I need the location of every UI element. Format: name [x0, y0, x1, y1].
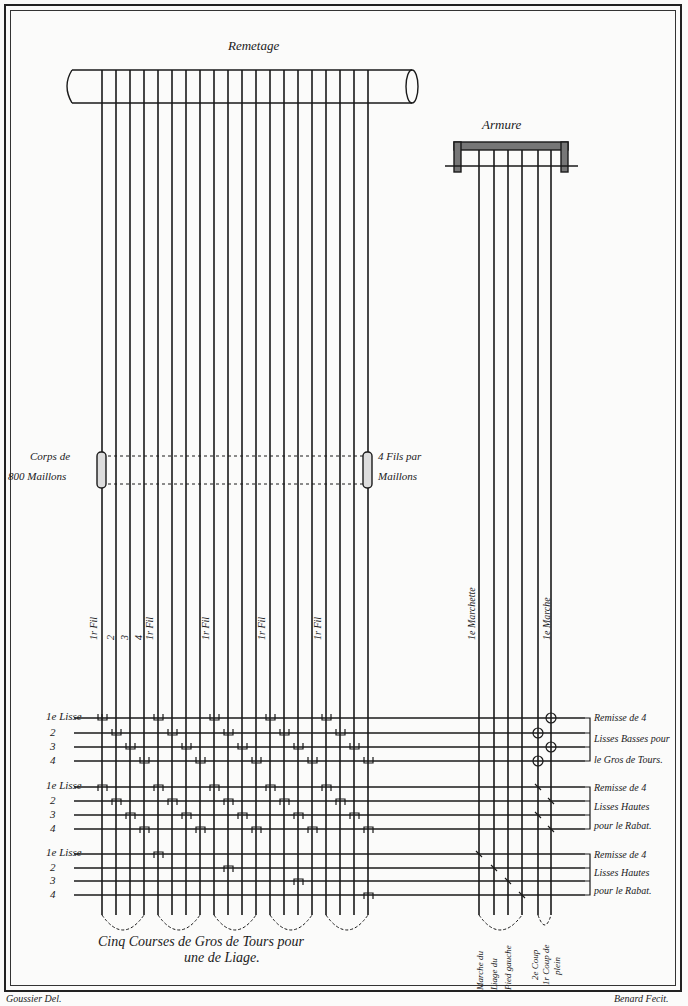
treadle-caption-e: 1r Coup de	[541, 945, 551, 986]
thread-label-13: 1r Fil	[256, 617, 267, 640]
note2-line3: pour le Rabat.	[594, 820, 652, 831]
treadle-label-1: 1e Marchette	[466, 587, 477, 640]
fils-label-2: Maillons	[378, 470, 417, 482]
note2-line2: Lisses Hautes	[594, 801, 649, 812]
treadle-caption-d: 2e Coup	[530, 950, 540, 980]
lisse1-row2: 2	[50, 726, 56, 738]
note1-line3: le Gros de Tours.	[594, 754, 663, 765]
lisse3-row2: 2	[50, 861, 56, 873]
lisse1-row4: 4	[50, 754, 56, 766]
lisse1-label: 1e Lisse	[46, 710, 82, 722]
lisse2-row2: 2	[50, 794, 56, 806]
thread-label-2: 2	[105, 635, 116, 640]
note3-line2: Lisses Hautes	[594, 867, 649, 878]
signature-right: Benard Fecit.	[614, 993, 669, 1004]
treadle-caption-b: Liage du	[489, 958, 499, 990]
caption-line2: une de Liage.	[184, 950, 260, 966]
thread-label-17: 1r Fil	[312, 617, 323, 640]
lisse2-row4: 4	[50, 822, 56, 834]
treadle-caption-c: Pied gauche	[503, 945, 513, 990]
thread-label-9: 1r Fil	[200, 617, 211, 640]
thread-label-5: 1r Fil	[144, 617, 155, 640]
signature-left: Goussier Del.	[6, 993, 62, 1004]
note1-line1: Remisse de 4	[594, 712, 646, 723]
lisse3-label: 1e Lisse	[46, 846, 82, 858]
fils-label-1: 4 Fils par	[378, 450, 421, 462]
lisse1-row3: 3	[50, 740, 56, 752]
lisse2-label: 1e Lisse	[46, 779, 82, 791]
caption-line1: Cinq Courses de Gros de Tours pour	[98, 934, 304, 950]
remetage-title: Remetage	[228, 38, 279, 54]
thread-label-1: 1r Fil	[88, 617, 99, 640]
corps-label-2: 800 Maillons	[8, 470, 66, 482]
treadle-caption-a: Marche du	[475, 951, 485, 990]
armure-title: Armure	[482, 117, 521, 133]
note1-line2: Lisses Basses pour	[594, 733, 670, 744]
lisse3-row3: 3	[50, 874, 56, 886]
note3-line1: Remisse de 4	[594, 849, 646, 860]
lisse2-row3: 3	[50, 808, 56, 820]
corps-label-1: Corps de	[30, 450, 70, 462]
note3-line3: pour le Rabat.	[594, 885, 652, 896]
treadle-caption-f: plein	[552, 957, 562, 975]
note2-line1: Remisse de 4	[594, 782, 646, 793]
lisse3-row4: 4	[50, 888, 56, 900]
thread-label-4: 4	[133, 635, 144, 640]
weaving-draft-diagram	[0, 0, 688, 1006]
treadle-label-march: 1e Marche	[541, 597, 552, 640]
thread-label-3: 3	[119, 635, 130, 640]
